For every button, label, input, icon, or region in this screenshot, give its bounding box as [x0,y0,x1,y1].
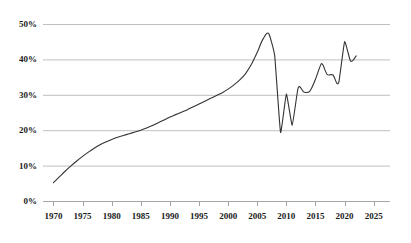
y-axis-tick-label-20pct: 20% [2,125,37,135]
gridlines [43,25,390,202]
y-axis-tick-label-40pct: 40% [2,54,37,64]
x-axis-tick-marks [54,202,375,206]
y-axis-tick-label-10pct: 10% [2,161,37,171]
line-chart-plot [0,0,411,243]
chart-container: 0%10%20%30%40%50% 1970197519801985199019… [0,0,411,243]
y-axis-tick-label-30pct: 30% [2,90,37,100]
y-axis-tick-label-0pct: 0% [2,196,37,206]
y-axis-tick-label-50pct: 50% [2,19,37,29]
x-axis-tick-label-2025: 2025 [357,211,391,221]
data-line-series-1 [53,33,356,183]
